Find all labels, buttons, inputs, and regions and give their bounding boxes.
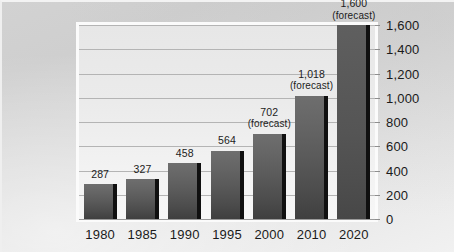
bar-body-2000	[253, 134, 286, 219]
plot-frame: 287327458564702(forecast)1,018(forecast)…	[76, 22, 378, 222]
value-note-2010: (forecast)	[272, 80, 352, 92]
bar-1980[interactable]	[84, 184, 117, 219]
gridline-0	[79, 219, 375, 220]
x-axis-label-1995: 1995	[212, 227, 242, 242]
y-axis-tick-1400	[375, 49, 380, 50]
y-axis-tick-800	[375, 122, 380, 123]
value-label-2010: 1,018(forecast)	[272, 69, 352, 92]
y-axis-label-800: 800	[386, 115, 408, 130]
bars-layer	[79, 25, 375, 219]
x-axis-label-1990: 1990	[170, 227, 200, 242]
y-axis-tick-600	[375, 146, 380, 147]
y-axis-tick-400	[375, 171, 380, 172]
y-axis-label-600: 600	[386, 139, 408, 154]
y-axis-tick-1600	[375, 25, 380, 26]
value-label-1990: 458	[145, 148, 225, 160]
value-label-2020: 1,600(forecast)	[314, 0, 394, 21]
x-axis-label-1980: 1980	[85, 227, 115, 242]
value-number-2010: 1,018	[272, 69, 352, 81]
bar-1985[interactable]	[126, 179, 159, 219]
bar-2000[interactable]	[253, 134, 286, 219]
y-axis: 02004006008001,0001,2001,4001,600	[386, 22, 452, 222]
y-axis-label-1400: 1,400	[386, 42, 420, 57]
x-axis-label-2010: 2010	[297, 227, 327, 242]
bar-body-1985	[126, 179, 159, 219]
y-axis-tick-1000	[375, 98, 380, 99]
value-note-2000: (forecast)	[229, 118, 309, 130]
y-axis-label-1600: 1,600	[386, 18, 420, 33]
value-number-1995: 564	[187, 135, 267, 147]
y-axis-label-1200: 1,200	[386, 66, 420, 81]
plot-area: 287327458564702(forecast)1,018(forecast)…	[79, 25, 375, 219]
x-axis-label-2000: 2000	[254, 227, 284, 242]
value-number-2020: 1,600	[314, 0, 394, 10]
y-axis-label-200: 200	[386, 187, 408, 202]
x-axis-label-1985: 1985	[128, 227, 158, 242]
chart-canvas: 287327458564702(forecast)1,018(forecast)…	[0, 0, 454, 252]
y-axis-tick-1200	[375, 74, 380, 75]
y-axis-tick-0	[375, 219, 380, 220]
y-axis-label-1000: 1,000	[386, 90, 420, 105]
value-number-1990: 458	[145, 148, 225, 160]
value-label-1985: 327	[102, 164, 182, 176]
y-axis-label-0: 0	[386, 212, 393, 227]
y-axis-tick-200	[375, 195, 380, 196]
value-label-1995: 564	[187, 135, 267, 147]
value-label-2000: 702(forecast)	[229, 107, 309, 130]
value-note-2020: (forecast)	[314, 10, 394, 22]
x-axis-label-2020: 2020	[339, 227, 369, 242]
bar-1995[interactable]	[211, 151, 244, 219]
value-number-2000: 702	[229, 107, 309, 119]
bar-body-1995	[211, 151, 244, 219]
bar-body-1980	[84, 184, 117, 219]
bar-body-2020	[337, 25, 370, 219]
x-axis: 1980198519901995200020102020	[76, 227, 378, 249]
bar-2020[interactable]	[337, 25, 370, 219]
y-axis-label-400: 400	[386, 163, 408, 178]
value-number-1985: 327	[102, 164, 182, 176]
